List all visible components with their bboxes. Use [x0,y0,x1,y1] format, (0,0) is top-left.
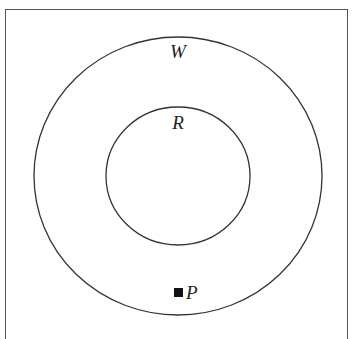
set-r-label: R [171,112,184,133]
set-w-label: W [170,41,188,62]
point-p-marker [174,288,183,297]
set-w-circle [34,37,322,315]
point-p-label: P [185,282,198,303]
